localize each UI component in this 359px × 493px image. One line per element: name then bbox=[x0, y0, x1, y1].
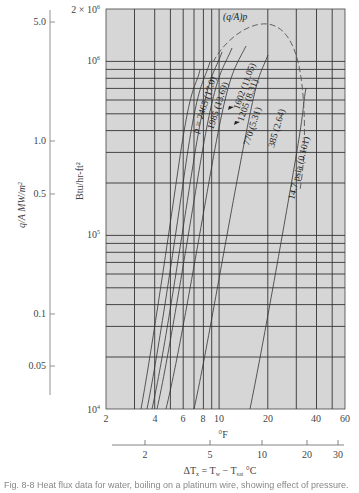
ytick-2e6: 2 × 106 bbox=[71, 4, 100, 15]
x-label-f: °F bbox=[218, 429, 228, 440]
ytick-1e6: 106 bbox=[87, 55, 100, 66]
x-axis-f: 246810204060 bbox=[104, 413, 351, 424]
ytick-1e5: 105 bbox=[87, 229, 100, 240]
xtick-f: 10 bbox=[214, 413, 224, 424]
y-label-mw: q/A MW/m² bbox=[16, 181, 27, 228]
y-axis-btu: 2 × 106 106 105 104 Btu/hr-ft² bbox=[71, 4, 100, 415]
xtick-f: 40 bbox=[311, 413, 321, 424]
boiling-chart: (q/A)p p = 2465 (17.0) 1985 (13.69) 1602… bbox=[0, 0, 359, 493]
y-label-btu: Btu/hr-ft² bbox=[74, 162, 85, 200]
xtick-c: 20 bbox=[302, 449, 312, 460]
xtick-f: 60 bbox=[340, 413, 350, 424]
xtick-c: 5 bbox=[208, 449, 213, 460]
xtick-f: 20 bbox=[263, 413, 273, 424]
ytick-1e4: 104 bbox=[87, 404, 100, 415]
xtick-f: 6 bbox=[181, 413, 186, 424]
figure-caption: Fig. 8-8 Heat flux data for water, boili… bbox=[4, 480, 359, 490]
ytick-mw: 5.0 bbox=[34, 16, 47, 27]
ytick-mw: 1.0 bbox=[34, 135, 47, 146]
x-label-c: ΔTx = Tw − Tsat °C bbox=[184, 465, 257, 477]
ytick-mw: 0.1 bbox=[34, 308, 47, 319]
ytick-mw: 0.05 bbox=[29, 360, 47, 371]
x-axis-c: 25102030 ΔTx = Tw − Tsat °C bbox=[112, 440, 344, 477]
xtick-f: 2 bbox=[104, 413, 109, 424]
y-axis-mw: 5.01.00.50.10.05 q/A MW/m² bbox=[16, 10, 55, 395]
xtick-f: 8 bbox=[201, 413, 206, 424]
xtick-f: 4 bbox=[153, 413, 158, 424]
ytick-mw: 0.5 bbox=[34, 188, 47, 199]
envelope-label: (q/A)p bbox=[223, 12, 248, 23]
xtick-c: 30 bbox=[333, 449, 343, 460]
xtick-c: 2 bbox=[143, 449, 148, 460]
xtick-c: 10 bbox=[257, 449, 267, 460]
